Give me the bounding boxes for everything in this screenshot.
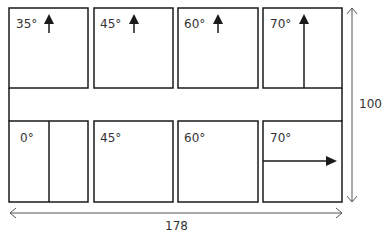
angle-label: 70° [270,17,291,31]
top-box-1: 35° [9,8,88,88]
arrow-up-icon [44,14,54,33]
height-dimension: 100 [347,8,382,202]
angle-label: 60° [184,131,205,145]
arrow-right-line-icon [263,156,337,166]
bottom-box-4: 70° [263,121,342,202]
width-label: 178 [165,219,188,233]
angle-label: 45° [100,131,121,145]
width-dimension: 178 [10,208,342,233]
top-box-2: 45° [94,8,173,88]
arrow-up-icon [129,14,139,33]
specimen-layout-diagram: 35° 45° 60° 70° 0° [0,0,382,241]
height-label: 100 [359,97,382,111]
bottom-box-2: 45° [94,121,173,202]
top-box-3: 60° [178,8,258,88]
angle-label: 70° [270,131,291,145]
bottom-box-3: 60° [178,121,258,202]
arrow-up-line-icon [299,14,309,88]
arrow-up-icon [213,14,223,33]
angle-label: 45° [100,17,121,31]
angle-label: 35° [16,17,37,31]
top-box-4: 70° [263,8,342,88]
angle-label: 60° [184,17,205,31]
angle-label: 0° [20,131,34,145]
bottom-box-1: 0° [9,121,88,202]
